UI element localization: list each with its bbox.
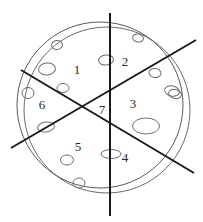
- speckle-12: [22, 88, 34, 99]
- outer-rim-arc: [24, 27, 190, 193]
- sector-7-label: 7: [99, 103, 106, 116]
- speckle-06: [148, 68, 161, 79]
- sector-2-label: 2: [122, 55, 129, 68]
- sectored-circle-diagram: 1234567: [0, 0, 203, 222]
- speckle-08: [133, 118, 160, 134]
- speckle-03: [57, 84, 69, 93]
- speckle-13: [61, 155, 74, 165]
- sector-1-label: 1: [74, 63, 81, 76]
- sector-6-label: 6: [39, 98, 46, 111]
- speckle-02: [38, 62, 56, 75]
- speckle-14: [168, 88, 183, 100]
- sector-3-label: 3: [130, 97, 137, 110]
- speckle-07: [164, 85, 181, 98]
- speckle-10: [73, 178, 85, 188]
- speckle-04: [98, 54, 114, 66]
- sector-5-label: 5: [75, 140, 82, 153]
- sector-4-label: 4: [122, 151, 129, 164]
